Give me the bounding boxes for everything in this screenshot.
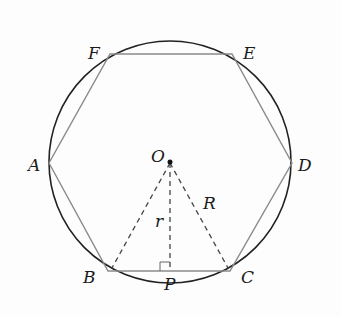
label-A: A (26, 155, 40, 175)
hexagon-circle-diagram: F E A D O R r B P C (0, 0, 341, 316)
label-F: F (87, 43, 101, 63)
label-P: P (163, 274, 176, 294)
label-R: R (202, 193, 216, 213)
label-O: O (151, 146, 165, 166)
label-r: r (155, 211, 164, 231)
segment-OC-radius-R (170, 163, 228, 268)
center-point-O (168, 160, 173, 165)
right-angle-marker (160, 262, 170, 271)
label-C: C (241, 267, 254, 287)
label-E: E (242, 43, 256, 63)
label-B: B (82, 267, 96, 287)
label-D: D (297, 155, 312, 175)
